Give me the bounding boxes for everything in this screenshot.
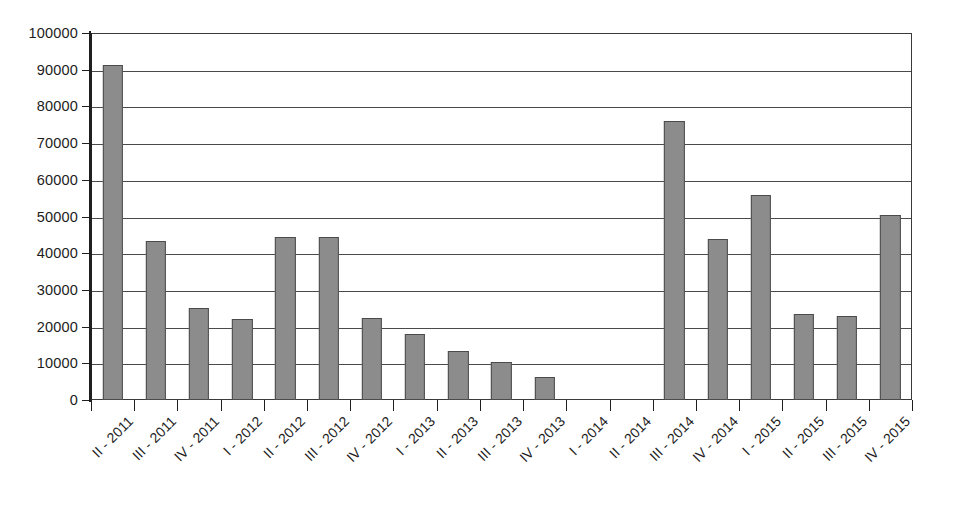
bar[interactable]: [318, 237, 338, 400]
y-axis-tick-label: 20000: [37, 319, 78, 334]
bar[interactable]: [232, 319, 252, 400]
y-axis-tick-label: 70000: [37, 136, 78, 151]
bar[interactable]: [405, 334, 425, 400]
y-axis-tick-label: 0: [70, 393, 78, 408]
x-axis-tick-label: III - 2013: [474, 413, 525, 464]
y-axis-tick-mark: [82, 70, 91, 71]
x-axis-tick-mark: [264, 400, 265, 411]
bar[interactable]: [880, 215, 900, 400]
x-axis-tick-mark: [696, 400, 697, 411]
x-axis-tick-label: II - 2011: [88, 413, 136, 461]
x-axis-tick-label: IV - 2015: [862, 413, 914, 465]
bar[interactable]: [146, 241, 166, 400]
y-axis-tick-label: 10000: [37, 356, 78, 371]
y-axis-tick-mark: [82, 400, 91, 401]
y-axis-tick-label: 30000: [37, 283, 78, 298]
x-axis-tick-marks: [91, 400, 912, 412]
x-axis-tick-labels: II - 2011III - 2011IV - 2011I - 2012II -…: [91, 413, 912, 511]
x-axis-tick-mark: [739, 400, 740, 411]
x-axis-tick-label: IV - 2012: [343, 413, 395, 465]
x-axis-tick-mark: [393, 400, 394, 411]
bar-chart: 1000009000080000700006000050000400003000…: [0, 0, 960, 511]
y-axis-tick-mark: [82, 143, 91, 144]
bar-slot: [437, 33, 480, 400]
x-axis-tick-label: III - 2014: [647, 413, 698, 464]
bar[interactable]: [102, 65, 122, 400]
bar[interactable]: [275, 237, 295, 400]
x-axis-tick-label: III - 2011: [129, 413, 179, 463]
bar-slot: [177, 33, 220, 400]
bar[interactable]: [362, 318, 382, 400]
bar-slot: [480, 33, 523, 400]
y-axis-tick-label: 50000: [37, 209, 78, 224]
x-axis-tick-mark: [307, 400, 308, 411]
y-axis-tick-label: 40000: [37, 246, 78, 261]
y-axis-tick-label: 90000: [37, 62, 78, 77]
bar-slot: [307, 33, 350, 400]
x-axis-tick-label: I - 2012: [220, 413, 265, 458]
bar-slot: [653, 33, 696, 400]
bar-slot: [523, 33, 566, 400]
x-axis-tick-label: IV - 2011: [171, 413, 222, 464]
y-axis-tick-labels: 1000009000080000700006000050000400003000…: [0, 0, 78, 511]
bar-slot: [221, 33, 264, 400]
x-axis-tick-mark: [91, 400, 92, 411]
y-axis-tick-mark: [82, 253, 91, 254]
bar[interactable]: [189, 308, 209, 400]
bar-slot: [91, 33, 134, 400]
bar[interactable]: [751, 195, 771, 400]
bar[interactable]: [707, 239, 727, 400]
x-axis-tick-mark: [221, 400, 222, 411]
y-axis-tick-mark: [82, 180, 91, 181]
y-axis-tick-mark: [82, 217, 91, 218]
bar[interactable]: [664, 121, 684, 400]
bar[interactable]: [794, 314, 814, 400]
x-axis-tick-label: I - 2014: [566, 413, 611, 458]
bar-slot: [826, 33, 869, 400]
y-axis-tick-mark: [82, 106, 91, 107]
x-axis-tick-label: IV - 2014: [689, 413, 741, 465]
x-axis-tick-mark: [782, 400, 783, 411]
x-axis-tick-label: I - 2013: [393, 413, 438, 458]
x-axis-tick-label: IV - 2013: [516, 413, 568, 465]
x-axis-tick-label: II - 2013: [433, 413, 481, 461]
x-axis-tick-label: III - 2012: [301, 413, 352, 464]
y-axis-tick-mark: [82, 290, 91, 291]
bar-slot: [134, 33, 177, 400]
x-axis-tick-mark: [480, 400, 481, 411]
x-axis-tick-mark: [523, 400, 524, 411]
bar-slot: [782, 33, 825, 400]
bar-slot: [350, 33, 393, 400]
x-axis-tick-mark: [826, 400, 827, 411]
bar-slot: [696, 33, 739, 400]
x-axis-tick-mark: [653, 400, 654, 411]
bar[interactable]: [535, 377, 555, 400]
y-axis-tick-mark: [82, 327, 91, 328]
y-axis-tick-mark: [82, 363, 91, 364]
x-axis-tick-mark: [869, 400, 870, 411]
x-axis-tick-mark: [177, 400, 178, 411]
bar-slot: [393, 33, 436, 400]
bar-slot: [610, 33, 653, 400]
x-axis-tick-mark: [566, 400, 567, 411]
x-axis-tick-mark: [912, 400, 913, 411]
x-axis-tick-mark: [437, 400, 438, 411]
y-axis-tick-mark: [82, 33, 91, 34]
x-axis-tick-mark: [350, 400, 351, 411]
bar-slot: [264, 33, 307, 400]
y-axis-tick-label: 80000: [37, 99, 78, 114]
bar[interactable]: [491, 362, 511, 400]
bars-layer: [91, 33, 912, 400]
x-axis-tick-label: I - 2015: [739, 413, 784, 458]
bar-slot: [739, 33, 782, 400]
x-axis-tick-mark: [610, 400, 611, 411]
bar-slot: [566, 33, 609, 400]
bar-slot: [869, 33, 912, 400]
bar[interactable]: [448, 351, 468, 400]
y-axis-tick-label: 60000: [37, 173, 78, 188]
bar[interactable]: [837, 316, 857, 400]
x-axis-tick-mark: [134, 400, 135, 411]
y-axis-tick-label: 100000: [28, 26, 78, 41]
